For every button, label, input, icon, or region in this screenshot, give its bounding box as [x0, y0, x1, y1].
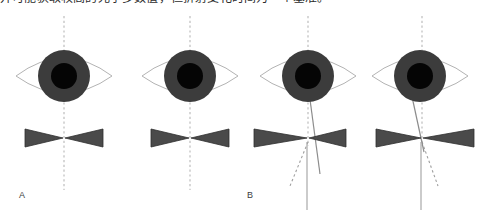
panel-eye-1 [4, 14, 124, 219]
pupil-1 [51, 63, 77, 89]
panel-label-b: B [247, 190, 253, 200]
panel-label-a: A [19, 190, 25, 200]
figure-caption-clipped: 并可能获取较高的光学多数值，但折射变化时间为一个基准。 [0, 0, 489, 11]
caption-text: 并可能获取较高的光学多数值，但折射变化时间为一个基准。 [0, 0, 329, 5]
pupil-3 [295, 63, 321, 89]
pupil-2 [177, 63, 203, 89]
panel-eye-2 [130, 14, 250, 219]
panel-eye-4 [362, 14, 482, 219]
panel-eye-3 [248, 14, 368, 219]
bowtie-3 [254, 129, 346, 147]
pupil-4 [407, 63, 433, 89]
ray-dashed-extension-4 [422, 142, 438, 186]
ray-dashed-extension-3 [290, 142, 308, 186]
bowtie-4 [376, 129, 474, 147]
figure-root: 并可能获取较高的光学多数值，但折射变化时间为一个基准。 [0, 0, 489, 219]
ray-solid-arrow-3 [309, 92, 320, 174]
